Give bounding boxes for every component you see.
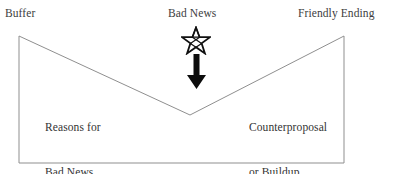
- label-reasons-for-bad-news: Reasons for Bad News: [45, 91, 101, 174]
- label-counterproposal-or-buildup: Counterproposal or Buildup: [249, 91, 327, 174]
- label-bad-news: Bad News: [168, 6, 216, 21]
- arrow-down-icon: [186, 54, 207, 89]
- diagram-canvas: Buffer Bad News Friendly Ending Reasons …: [0, 0, 393, 174]
- label-reasons-line-2: Bad News: [45, 165, 101, 174]
- label-counter-line-1: Counterproposal: [249, 120, 327, 135]
- label-reasons-line-1: Reasons for: [45, 120, 101, 135]
- label-counter-line-2: or Buildup: [249, 165, 327, 174]
- label-friendly-ending: Friendly Ending: [298, 6, 375, 21]
- label-buffer: Buffer: [5, 6, 35, 21]
- star-icon: [181, 26, 211, 55]
